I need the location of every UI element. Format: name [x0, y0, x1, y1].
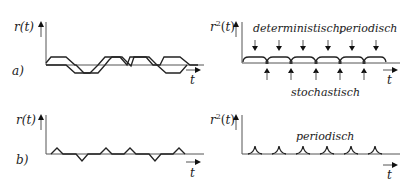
up-arrow-icon	[264, 68, 270, 80]
up-arrows	[264, 68, 367, 80]
up-arrow-icon	[361, 68, 367, 80]
triangle-signal-trace	[51, 148, 185, 161]
row-label-a: a)	[12, 64, 24, 78]
x-axis-label: t	[387, 73, 392, 87]
down-arrow-icon	[373, 40, 379, 51]
down-arrow-icon	[276, 40, 282, 51]
panel-a-right: r2(t) t deterministisch, periodisch stoc…	[210, 19, 400, 99]
y-axis-label: r(t)	[16, 113, 36, 127]
y-axis-label: r2(t)	[210, 19, 235, 34]
panel-a-left: r(t) a) t	[12, 20, 204, 87]
squared-cusp-trace	[248, 146, 382, 154]
annotation-periodisch: periodisch	[339, 22, 397, 35]
annotation-periodisch: periodisch	[296, 130, 354, 143]
annotation-deterministisch: deterministisch,	[253, 22, 343, 35]
down-arrow-icon	[252, 40, 258, 51]
x-axis-label: t	[190, 166, 195, 180]
signal-diagram: r(t) a) t r2(t) t deterministisch, perio…	[0, 0, 413, 184]
up-arrow-icon	[337, 68, 343, 80]
y-axis-label: r2(t)	[210, 112, 235, 127]
annotation-stochastisch: stochastisch	[291, 86, 360, 99]
down-arrows	[252, 40, 379, 51]
y-axis-label: r(t)	[14, 20, 34, 34]
down-arrow-icon	[349, 40, 355, 51]
down-arrow-icon	[325, 40, 331, 51]
panel-b-right: r2(t) t periodisch	[210, 112, 400, 182]
row-label-b: b)	[16, 153, 29, 167]
up-arrow-icon	[288, 68, 294, 80]
x-axis-label: t	[190, 73, 195, 87]
panel-b-left: r(t) b) t	[16, 113, 204, 180]
up-arrow-icon	[313, 68, 319, 80]
down-arrow-icon	[300, 40, 306, 51]
x-axis-label: t	[387, 168, 392, 182]
